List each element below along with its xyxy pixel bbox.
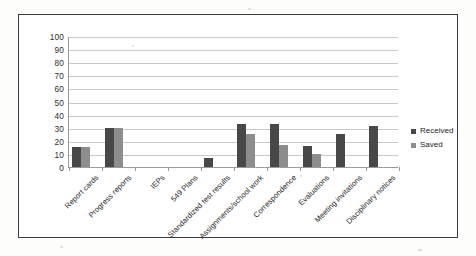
scan-speckle [60,246,63,248]
bar-received [336,134,345,167]
x-axis-category-label: 549 Plans [169,173,200,204]
bar-group [300,37,333,167]
x-axis-tick [201,167,202,171]
x-axis-tick [69,167,70,171]
bar-saved [279,145,288,167]
bar-received [204,158,213,167]
bar-received [303,146,312,167]
chart-legend: ReceivedSaved [411,127,453,155]
bar-received [270,124,279,167]
x-axis-tick [399,167,400,171]
y-axis-tick-label: 100 [50,32,64,42]
bar-group [234,37,267,167]
x-axis-tick [234,167,235,171]
x-axis-tick [168,167,169,171]
y-axis-tick-label: 50 [55,98,64,108]
bar-saved [114,128,123,167]
bar-saved [312,154,321,167]
plot-area: 0102030405060708090100 [68,37,398,168]
bar-group [366,37,399,167]
y-axis-tick-label: 70 [55,71,64,81]
bar-received [105,128,114,167]
bar-saved [246,134,255,167]
bar-group [135,37,168,167]
x-axis-category-label: Standardized test results [166,173,232,239]
x-axis-tick [300,167,301,171]
x-axis-category-label: Evaluations [296,173,331,208]
x-axis-tick [135,167,136,171]
bar-group [333,37,366,167]
legend-swatch [411,143,416,148]
legend-swatch [411,129,416,134]
y-axis-tick-label: 80 [55,58,64,68]
legend-label: Saved [420,141,443,149]
y-axis-tick-label: 20 [55,137,64,147]
x-axis-tick [267,167,268,171]
y-axis-tick-label: 30 [55,124,64,134]
y-axis-tick-label: 10 [55,150,64,160]
x-axis-tick [333,167,334,171]
legend-label: Received [420,127,453,135]
bar-received [237,124,246,167]
bar-received [72,147,81,167]
bar-received [369,126,378,167]
x-axis-tick [102,167,103,171]
bar-group [267,37,300,167]
legend-entry: Saved [411,141,453,149]
scan-speckle [300,175,302,177]
x-axis-tick [366,167,367,171]
x-axis-category-label: Assignments/school work [197,173,265,241]
bar-group [69,37,102,167]
bar-saved [81,147,90,167]
x-axis-category-label: IEPs [148,173,166,191]
legend-entry: Received [411,127,453,135]
y-axis-tick-label: 40 [55,111,64,121]
y-axis-tick-label: 0 [59,163,64,173]
scanned-page: 0102030405060708090100 Report cardsProgr… [0,0,476,256]
scan-speckle [418,249,422,251]
bar-group [201,37,234,167]
scan-speckle [248,8,251,10]
bar-group [102,37,135,167]
y-axis-tick-label: 60 [55,84,64,94]
scan-speckle [132,45,134,47]
y-axis-tick-label: 90 [55,45,64,55]
bar-group [168,37,201,167]
chart-frame: 0102030405060708090100 Report cardsProgr… [18,14,458,238]
